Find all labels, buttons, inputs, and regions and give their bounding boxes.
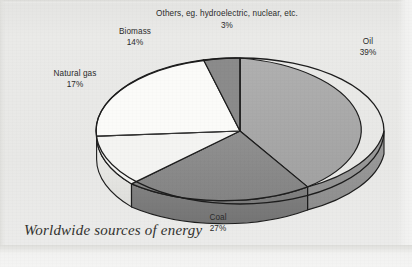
pie-label-others-name: Others, eg. hydroelectric, nuclear, etc.: [156, 9, 298, 18]
page-background: Others, eg. hydroelectric, nuclear, etc.…: [0, 0, 412, 267]
pie-label-natural-gas-name: Natural gas: [54, 69, 97, 78]
pie-label-others: Others, eg. hydroelectric, nuclear, etc.…: [148, 8, 306, 31]
pie-label-natural-gas-value: 17%: [38, 79, 112, 90]
pie-label-oil-value: 39%: [348, 47, 388, 58]
pie-label-oil-name: Oil: [363, 37, 373, 46]
pie-label-biomass-value: 14%: [104, 37, 166, 48]
pie-label-biomass: Biomass 14%: [104, 26, 166, 48]
pie-label-oil: Oil 39%: [348, 36, 388, 58]
pie-label-others-value: 3%: [148, 20, 306, 31]
pie-label-natural-gas: Natural gas 17%: [38, 68, 112, 90]
chart-caption: Worldwide sources of energy: [24, 222, 202, 239]
pie-label-biomass-name: Biomass: [119, 27, 151, 36]
pie-label-coal-name: Coal: [209, 213, 226, 222]
pie-chart: Others, eg. hydroelectric, nuclear, etc.…: [0, 0, 412, 267]
